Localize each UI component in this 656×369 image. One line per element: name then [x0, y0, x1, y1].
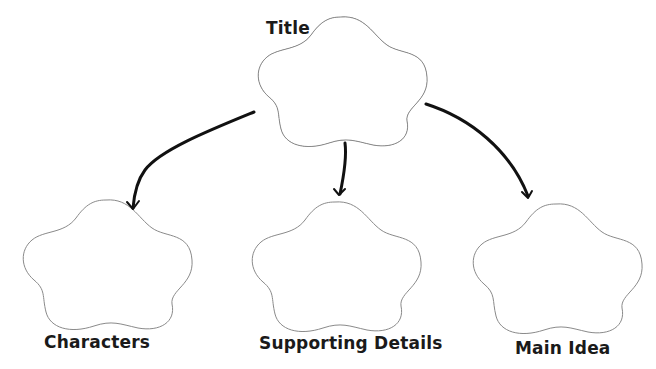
- label-characters: Characters: [44, 332, 150, 352]
- cloud-main-idea[interactable]: [473, 204, 642, 334]
- arrow-to-main-idea: [426, 104, 532, 198]
- cloud-supporting-details[interactable]: [252, 202, 421, 332]
- label-title: Title: [266, 18, 310, 38]
- arrow-to-characters: [127, 112, 254, 209]
- diagram-canvas: [0, 0, 656, 369]
- arrow-to-supporting-details: [334, 143, 346, 195]
- label-supporting-details: Supporting Details: [259, 333, 443, 353]
- cloud-characters[interactable]: [23, 200, 192, 330]
- label-main-idea: Main Idea: [515, 338, 611, 358]
